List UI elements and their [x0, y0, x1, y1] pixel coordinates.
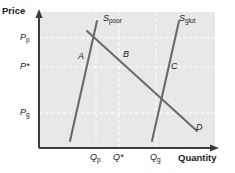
chart-vector-layer: [0, 0, 235, 173]
y-tick-p-star: P*: [20, 61, 30, 71]
y-tick-p-glut-sub: g: [26, 111, 30, 118]
curve-label-s-poor: Spoor: [103, 13, 122, 23]
x-tick-q-glut-text: Q: [150, 152, 157, 162]
y-tick-p-glut: Pg: [20, 107, 30, 117]
y-tick-p-poor-sub: p: [26, 36, 30, 43]
x-tick-q-poor: Qp: [90, 152, 101, 162]
point-label-c: C: [171, 61, 178, 71]
y-axis-title: Price: [2, 5, 25, 16]
supply-curve-poor: [70, 21, 97, 141]
point-label-d: D: [196, 122, 203, 132]
supply-demand-chart: Price Quantity Pp P* Pg Qp Q* Qg Spoor S…: [0, 0, 235, 173]
curve-label-s-glut: Sglut: [179, 13, 196, 23]
y-axis-arrow-icon: [35, 9, 42, 18]
x-axis-title: Quantity: [178, 152, 217, 163]
x-tick-q-poor-sub: p: [97, 156, 101, 163]
curve-label-s-poor-sub: poor: [109, 17, 122, 24]
point-label-a: A: [78, 51, 84, 61]
x-tick-q-star: Q*: [113, 152, 124, 162]
curve-label-s-glut-sub: glut: [185, 17, 195, 24]
x-tick-q-poor-text: Q: [90, 152, 97, 162]
x-tick-q-glut-sub: g: [157, 156, 161, 163]
y-tick-p-poor: Pp: [20, 32, 30, 42]
demand-curve: [87, 31, 197, 131]
vertical-gridlines: [96, 12, 156, 148]
x-tick-q-glut: Qg: [150, 152, 161, 162]
point-label-b: B: [123, 49, 129, 59]
x-axis-arrow-icon: [210, 144, 219, 151]
